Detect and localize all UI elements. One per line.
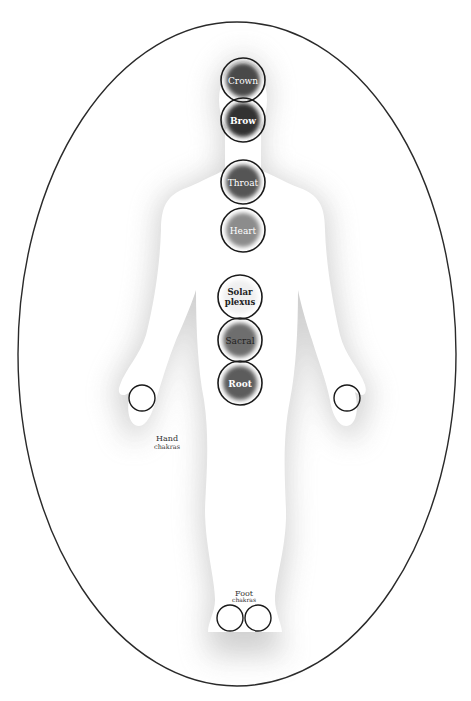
chakra-root: Root bbox=[218, 361, 262, 405]
chakra-solar-plexus: Solar plexus bbox=[218, 275, 262, 319]
hand-chakras-label-line1: Hand bbox=[156, 434, 178, 443]
chakra-throat: Throat bbox=[221, 160, 265, 204]
chakra-label-throat: Throat bbox=[228, 178, 259, 188]
foot-chakras-label-line2: chakras bbox=[232, 596, 256, 603]
chakra-label-plexus: plexus bbox=[225, 297, 256, 307]
chakra-label-heart: Heart bbox=[230, 226, 257, 236]
hand-chakras-label-line2: chakras bbox=[154, 443, 180, 451]
chakra-label-crown: Crown bbox=[228, 76, 258, 86]
chakra-label-sacral: Sacral bbox=[225, 336, 254, 346]
chakra-label-solar: Solar bbox=[227, 287, 253, 297]
chakra-crown: Crown bbox=[221, 58, 265, 102]
chakra-brow: Brow bbox=[221, 98, 265, 142]
chakra-heart: Heart bbox=[221, 208, 265, 252]
chakra-label-root: Root bbox=[228, 379, 252, 389]
chakra-label-brow: Brow bbox=[230, 116, 256, 126]
chakra-sacral: Sacral bbox=[218, 318, 262, 362]
chakra-diagram: Crown Brow Throat Heart Solar plexus Sac… bbox=[0, 0, 471, 701]
